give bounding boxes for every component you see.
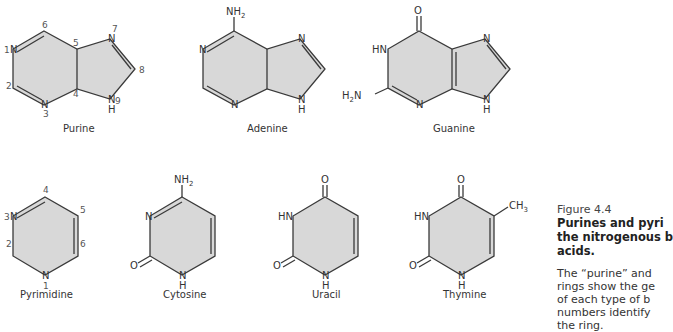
figure-number: Figure 4.4 [557,203,627,216]
caption-uracil: Uracil [312,289,341,300]
atom-n3: N [10,211,17,222]
atom-o: O [414,5,422,16]
uracil-structure: O HN O N H Uracil [273,174,358,300]
caption-adenine: Adenine [247,123,288,134]
figure-title: Purines and pyri the nitrogenous b acids… [557,216,627,258]
atom-h9: H [298,104,306,115]
figure-title-line: Purines and pyri [557,216,627,230]
guanine-structure: O HN H2N N N N H Guanine [342,5,510,134]
atom-o2: O [273,260,281,271]
caption-cytosine: Cytosine [163,289,206,300]
figure-caption: Figure 4.4 Purines and pyri the nitrogen… [557,203,627,332]
atom-n3: N [145,211,152,222]
figure-title-line: acids. [557,244,627,258]
atom-n7: N [483,33,490,44]
purine-structure: N N N N H 1 2 3 4 5 6 7 8 9 Purine [4,20,145,134]
atom-n3: N [231,99,238,110]
atom-o4: O [321,174,329,185]
cytosine-ring [150,197,215,275]
figure-body-line: The “purine” and [557,267,627,280]
adenine-structure: NH2 N N N N H Adenine [199,6,325,134]
atom-n3: N [416,99,423,110]
position-4: 4 [43,185,49,195]
atom-n1: N [10,44,17,55]
bond-methyl [494,207,508,216]
caption-guanine: Guanine [433,123,475,134]
atom-n1: N [42,270,49,281]
methyl-group: CH3 [509,200,528,214]
position-8: 8 [139,65,145,75]
amino-group: NH2 [226,6,245,20]
atom-o2: O [409,260,417,271]
caption-thymine: Thymine [442,289,486,300]
thymine-ring [429,197,494,275]
position-6: 6 [80,239,86,249]
position-3: 3 [43,109,49,119]
position-2: 2 [6,81,12,91]
figure-body-line: of each type of b [557,293,627,306]
atom-hn: HN [414,211,429,222]
caption-purine: Purine [63,123,95,134]
atom-o: O [130,260,138,271]
position-9: 9 [115,96,121,106]
atom-o4: O [457,174,465,185]
position-5: 5 [80,205,86,215]
amino-group: H2N [342,90,361,104]
position-1: 1 [4,45,10,55]
caption-pyrimidine: Pyrimidine [20,289,73,300]
position-6: 6 [42,20,48,30]
position-2: 2 [6,239,12,249]
atom-n1: N [199,44,206,55]
position-7: 7 [112,24,118,34]
atom-hn: HN [278,211,293,222]
figure-title-line: the nitrogenous b [557,230,627,244]
position-4: 4 [73,89,79,99]
atom-n7: N [298,33,305,44]
figure-description: The “purine” and rings show the ge of ea… [557,267,627,332]
pyrimidine-ring [13,197,78,275]
atom-n7: N [108,33,115,44]
uracil-ring [293,197,358,275]
position-5: 5 [73,38,79,48]
figure-body-line: numbers identify [557,306,627,319]
position-3: 3 [4,212,10,222]
atom-hn: HN [372,44,387,55]
thymine-structure: O HN O N H CH3 Thymine [409,174,528,300]
cytosine-structure: NH2 N O N H Cytosine [130,174,215,300]
amino-group: NH2 [174,174,193,188]
figure-body-line: the ring. [557,319,627,332]
pyrimidine-structure: N N 4 5 6 2 3 1 Pyrimidine [4,185,86,300]
atom-h9: H [483,104,491,115]
bond-amino [375,88,388,94]
figure-body-line: rings show the ge [557,280,627,293]
